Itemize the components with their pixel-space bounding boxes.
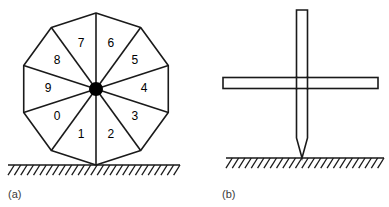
wheel-sector-label-3: 3 <box>131 109 138 123</box>
wheel-sector-label-6: 6 <box>107 36 114 50</box>
figure-canvas: 0123456789 (a) (b) <box>0 0 389 207</box>
wheel-sector-label-1: 1 <box>78 127 85 141</box>
horizontal-bar <box>223 78 378 89</box>
wheel-sector-label-8: 8 <box>54 53 61 67</box>
wheel-hub <box>89 82 103 96</box>
panel-a-caption: (a) <box>8 188 21 200</box>
wheel-sector-label-5: 5 <box>131 53 138 67</box>
wheel-sector-label-9: 9 <box>45 81 52 95</box>
wheel-sector-label-0: 0 <box>54 109 61 123</box>
panel-b-caption: (b) <box>222 188 235 200</box>
wheel-sector-label-2: 2 <box>107 127 114 141</box>
wheel-sector-label-7: 7 <box>78 36 85 50</box>
wheel-sector-label-4: 4 <box>141 81 148 95</box>
